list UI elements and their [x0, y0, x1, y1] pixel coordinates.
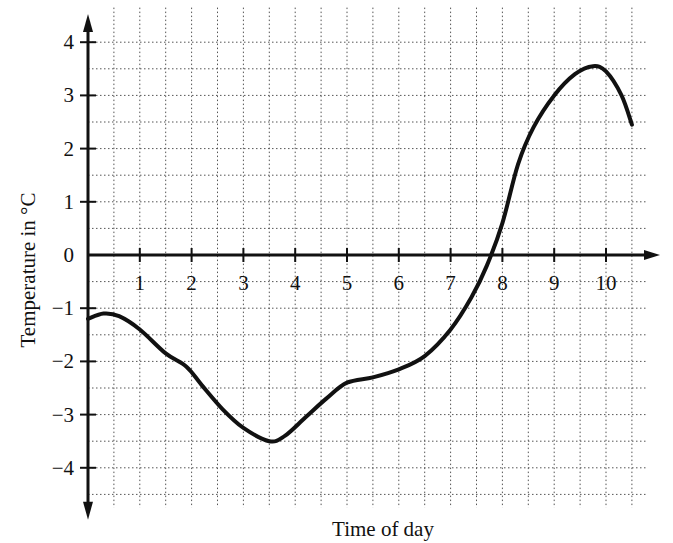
x-axis-arrow-icon [644, 250, 660, 260]
x-tick-label: 4 [290, 271, 301, 295]
x-axis-label: Time of day [332, 517, 434, 541]
y-tick-label: −4 [52, 456, 75, 480]
x-tick-label: 1 [135, 271, 146, 295]
x-tick-label: 10 [596, 271, 617, 295]
y-axis-arrow-up-icon [83, 14, 93, 32]
y-tick-label: −1 [52, 296, 74, 320]
x-tick-label: 7 [445, 271, 456, 295]
y-tick-label: −3 [52, 403, 74, 427]
axes [80, 14, 660, 520]
y-axis-arrow-down-icon [83, 502, 93, 520]
x-tick-label: 6 [394, 271, 405, 295]
x-tick-label: 5 [342, 271, 353, 295]
grid [88, 8, 646, 508]
x-tick-label: 2 [186, 271, 197, 295]
y-tick-label: 2 [64, 137, 75, 161]
y-tick-label: 0 [64, 243, 75, 267]
y-tick-label: 1 [64, 190, 75, 214]
y-axis-label: Temperature in °C [16, 192, 40, 347]
x-tick-label: 3 [238, 271, 249, 295]
y-tick-label: −2 [52, 349, 74, 373]
x-tick-label: 8 [497, 271, 508, 295]
y-tick-label: 3 [64, 83, 75, 107]
temperature-chart: 1234567891043210−1−2−3−4 Time of day Tem… [0, 0, 673, 543]
x-tick-label: 9 [549, 271, 560, 295]
y-tick-label: 4 [64, 30, 75, 54]
